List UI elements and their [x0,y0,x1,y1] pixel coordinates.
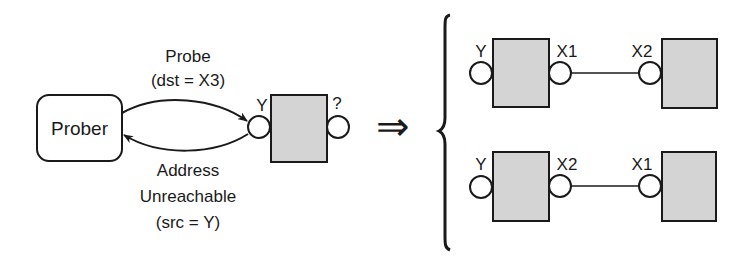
diagram-canvas: Prober Probe (dst = X3) Address Unreacha… [0,0,753,268]
reply-label-line1: Address [157,161,219,180]
interface-y-circle [248,116,270,138]
case2-far-in-label: X1 [632,155,653,174]
prober-label: Prober [51,118,109,139]
case2-y-label: Y [475,155,486,174]
case2-near-out-label: X2 [557,155,578,174]
prober-node: Prober [37,95,122,161]
probed-router: Y ? [248,94,349,162]
case-2: Y X2 X1 [470,152,716,221]
probe-label: Probe [165,47,210,66]
reply-label-line2: Unreachable [140,187,236,206]
probe-arrow [122,100,247,121]
unreachable-arrow [124,134,248,151]
interface-unknown-circle [327,116,349,138]
case1-far-in-label: X2 [632,42,653,61]
interface-y-label: Y [256,96,267,115]
implies-arrow-icon: ⇒ [376,104,410,148]
curly-brace [439,15,450,250]
case1-y-label: Y [475,42,486,61]
reply-label-line3: (src = Y) [156,213,220,232]
interface-unknown-label: ? [332,94,341,113]
probe-dst-label: (dst = X3) [151,71,225,90]
case1-near-out-label: X1 [557,42,578,61]
case-1: Y X1 X2 [470,39,717,108]
